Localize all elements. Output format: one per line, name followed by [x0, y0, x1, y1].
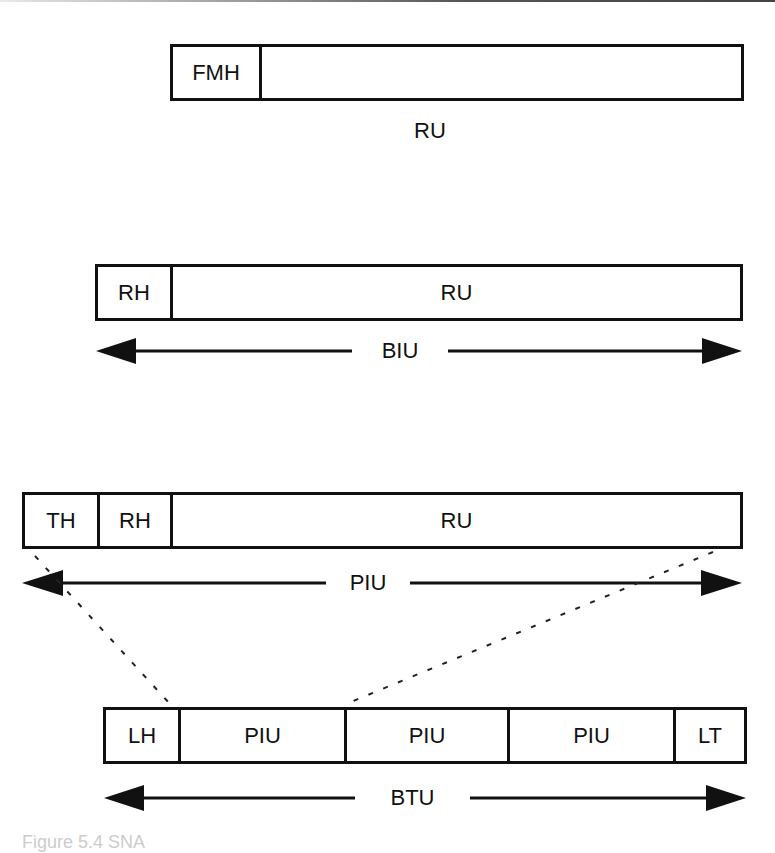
arrow-right-icon	[702, 338, 742, 364]
biu-label: BIU	[352, 338, 448, 364]
arrow-right-icon	[701, 570, 742, 596]
arrow-left-icon	[104, 785, 144, 811]
arrow-right-icon	[706, 785, 746, 811]
btu-label: BTU	[355, 785, 470, 811]
piu-label: PIU	[326, 570, 410, 596]
figure-caption: Figure 5.4 SNA	[22, 832, 145, 853]
arrow-left-icon	[22, 570, 63, 596]
arrow-left-icon	[96, 338, 136, 364]
